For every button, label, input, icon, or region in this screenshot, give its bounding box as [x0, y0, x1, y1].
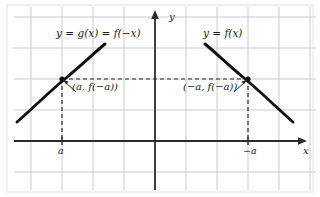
curve-label-f-of-x: y = f(x) — [203, 28, 242, 39]
point-label-right: (−a, f(−a)) — [183, 82, 237, 92]
x-tick-label-negative-a: −a — [243, 146, 257, 156]
point-label-left: (a, f(−a)) — [72, 82, 118, 92]
function-reflection-diagram: y = g(x) = f(−x) y = f(x) (a, f(−a)) (−a… — [0, 0, 320, 197]
graph-canvas — [0, 0, 320, 197]
x-tick-label-a: a — [58, 146, 64, 156]
axis-label-x: x — [303, 146, 309, 156]
axis-label-y: y — [169, 12, 175, 22]
axis-y — [151, 10, 159, 190]
axis-x — [14, 137, 307, 145]
curve-label-g-of-x: y = g(x) = f(−x) — [56, 28, 141, 39]
